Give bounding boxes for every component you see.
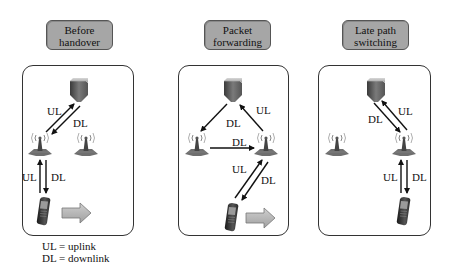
mobile-phone-icon xyxy=(225,203,239,231)
label-ul-core: UL xyxy=(47,106,62,117)
label-dl-core: DL xyxy=(73,118,88,129)
antenna-tower-icon xyxy=(392,133,416,156)
label-dl-radio: DL xyxy=(412,172,427,183)
antenna-tower-icon xyxy=(254,133,278,156)
label-dl-forward: DL xyxy=(232,137,247,148)
antenna-tower-icon xyxy=(74,133,98,156)
label-ul-radio: UL xyxy=(232,164,247,175)
label-ul-core: UL xyxy=(256,105,271,116)
right-block-arrow-icon xyxy=(62,203,91,223)
panel-3-graphics xyxy=(325,78,416,225)
label-ul-radio: UL xyxy=(22,172,37,183)
mobile-phone-icon xyxy=(397,197,411,225)
panel-1-graphics xyxy=(28,78,98,225)
label-dl-core: DL xyxy=(226,118,241,129)
server-icon xyxy=(224,78,242,102)
label-dl-core: DL xyxy=(368,114,383,125)
label-ul-radio: UL xyxy=(383,172,398,183)
downlink-arrow xyxy=(201,104,227,131)
panel-2-graphics xyxy=(185,78,278,231)
legend: UL = uplink DL = downlink xyxy=(42,240,110,264)
server-icon xyxy=(367,78,385,102)
label-dl-radio: DL xyxy=(51,172,66,183)
antenna-tower-icon xyxy=(28,133,52,156)
right-block-arrow-icon xyxy=(246,208,275,228)
label-dl-radio: DL xyxy=(261,175,276,186)
server-icon xyxy=(70,78,88,102)
antenna-tower-icon xyxy=(185,133,209,156)
label-ul-core: UL xyxy=(398,106,413,117)
antenna-tower-icon xyxy=(325,133,349,156)
legend-uplink: UL = uplink xyxy=(42,240,110,252)
mobile-phone-icon xyxy=(37,197,51,225)
legend-downlink: DL = downlink xyxy=(42,252,110,264)
